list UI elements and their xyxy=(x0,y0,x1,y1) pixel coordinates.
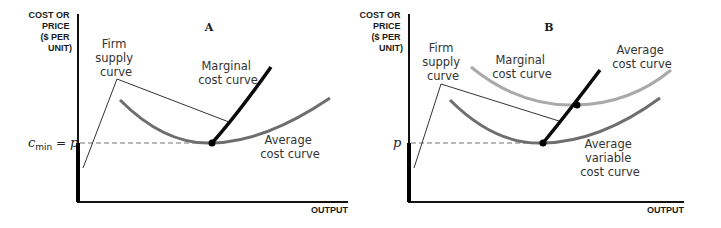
panel-letter: A xyxy=(204,21,214,34)
x-axis-title: OUTPUT xyxy=(647,205,685,215)
firm-supply-label: Firm supply curve xyxy=(95,37,137,79)
average-cost-label: Average cost curve xyxy=(612,43,672,71)
average-cost-label: Average cost curve xyxy=(260,133,320,161)
firm-supply-pointer xyxy=(414,84,559,168)
marginal-cost-label: Marginal cost curve xyxy=(492,53,552,81)
y-axis-title: COST OR PRICE ($ PER UNIT) xyxy=(359,10,403,53)
avc-minimum-point xyxy=(540,140,547,147)
y-axis-title: COST OR PRICE ($ PER UNIT) xyxy=(28,10,72,53)
firm-supply-pointer xyxy=(83,79,229,168)
average-variable-cost-label: Average variable cost curve xyxy=(580,137,640,179)
marginal-cost-label: Marginal cost curve xyxy=(198,59,258,87)
diagram-canvas: COST OR PRICE ($ PER UNIT) A OUTPUT Firm… xyxy=(0,0,721,228)
minimum-point xyxy=(209,140,216,147)
panel-a: COST OR PRICE ($ PER UNIT) A OUTPUT Firm… xyxy=(28,10,349,215)
firm-supply-label: Firm supply curve xyxy=(422,41,464,83)
panel-b: COST OR PRICE ($ PER UNIT) B OUTPUT Firm… xyxy=(359,10,684,215)
panel-letter: B xyxy=(544,21,553,34)
p-label: p xyxy=(393,135,402,150)
cmin-equals-p-label: cmin = p xyxy=(28,135,79,152)
ac-minimum-point xyxy=(574,102,581,109)
x-axis-title: OUTPUT xyxy=(311,205,349,215)
